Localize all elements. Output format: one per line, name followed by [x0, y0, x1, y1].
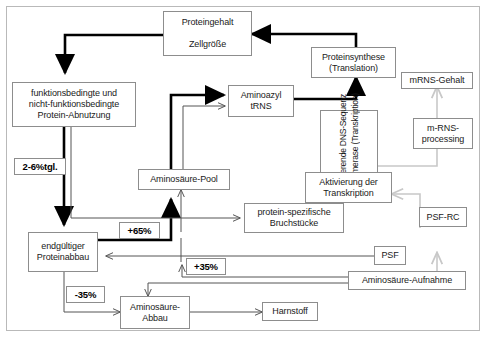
- node-psf[interactable]: PSF: [374, 246, 406, 265]
- node-aminoazyl-line1: Aminoazyl: [241, 90, 282, 101]
- node-mrns-processing-line1: m-RNS-: [427, 123, 459, 134]
- node-proteinabbau-line2: Proteinabbau: [37, 252, 89, 263]
- node-aminoazyl-trns[interactable]: Aminoazyl tRNS: [228, 85, 294, 117]
- node-aktivierung-transkription[interactable]: Aktivierung der Transkription: [305, 172, 392, 203]
- label-plus65-text: +65%: [128, 225, 152, 237]
- node-psf-line1: PSF: [381, 250, 398, 261]
- node-aminosaeure-abbau[interactable]: Aminosäure- Abbau: [120, 296, 190, 329]
- node-harnstoff-line1: Harnstoff: [272, 306, 307, 317]
- node-proteingehalt[interactable]: Proteingehalt Zellgröße: [163, 11, 252, 56]
- node-mrns-gehalt[interactable]: mRNS-Gehalt: [401, 72, 473, 89]
- node-mrns-processing-line2: processing: [422, 134, 465, 145]
- node-abnutzung-line2: nicht-funktionsbedingte: [29, 99, 119, 110]
- label-plus65: +65%: [119, 222, 160, 239]
- node-psf-rc-line1: PSF-RC: [427, 212, 460, 223]
- node-mrns-gehalt-line1: mRNS-Gehalt: [410, 75, 465, 86]
- node-aufnahme-line1: Aminosäure-Aufnahme: [362, 275, 452, 286]
- node-abbau-line1: Aminosäure-: [130, 302, 180, 313]
- node-aminoazyl-line2: tRNS: [250, 101, 271, 112]
- label-minus35-text: -35%: [75, 289, 96, 301]
- node-aktivierung-line2: Transkription: [323, 188, 373, 199]
- node-proteinabbau-line1: endgültiger: [41, 241, 84, 252]
- node-aminosaeure-pool[interactable]: Aminosäure-Pool: [138, 169, 230, 190]
- node-abnutzung-line1: funktionsbedingte und: [31, 88, 117, 99]
- node-bruchstuecke[interactable]: protein-spezifische Bruchstücke: [244, 203, 344, 233]
- label-plus35: +35%: [186, 258, 226, 275]
- node-abnutzung-line3: Protein-Abnutzung: [38, 110, 111, 121]
- node-abbau-line2: Abbau: [142, 313, 168, 324]
- node-aktivierung-line1: Aktivierung der: [319, 177, 378, 188]
- label-daily-turnover: 2-6%tgl.: [14, 158, 66, 175]
- node-proteinabbau[interactable]: endgültiger Proteinabbau: [28, 232, 98, 272]
- node-proteinsynthese-line1: Proteinsynthese: [322, 52, 385, 63]
- node-psf-rc[interactable]: PSF-RC: [419, 207, 467, 227]
- label-minus35: -35%: [66, 286, 105, 303]
- node-transkription-vertical[interactable]: kodierende DNS-Sequenz Polymerase (Trans…: [320, 110, 378, 173]
- node-proteinsynthese-line2: (Translation): [329, 63, 378, 74]
- node-harnstoff[interactable]: Harnstoff: [262, 302, 318, 321]
- node-proteinsynthese[interactable]: Proteinsynthese (Translation): [311, 47, 396, 78]
- node-proteingehalt-line2: Zellgröße: [189, 39, 226, 50]
- node-bruchstuecke-line1: protein-spezifische: [257, 207, 330, 218]
- node-aminosaeure-pool-line1: Aminosäure-Pool: [150, 174, 218, 185]
- label-plus35-text: +35%: [194, 261, 218, 273]
- node-abnutzung[interactable]: funktionsbedingte und nicht-funktionsbed…: [12, 82, 136, 127]
- node-mrns-processing[interactable]: m-RNS- processing: [413, 118, 473, 149]
- node-aminosaeure-aufnahme[interactable]: Aminosäure-Aufnahme: [348, 271, 466, 290]
- diagram-canvas: Proteingehalt Zellgröße funktionsbedingt…: [0, 0, 488, 339]
- label-daily-turnover-text: 2-6%tgl.: [23, 161, 58, 173]
- node-bruchstuecke-line2: Bruchstücke: [270, 218, 318, 229]
- node-proteingehalt-line1: Proteingehalt: [182, 17, 234, 28]
